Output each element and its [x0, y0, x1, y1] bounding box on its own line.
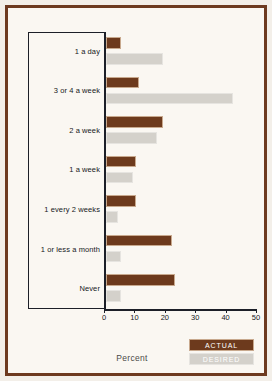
legend-label-actual: ACTUAL [205, 342, 238, 349]
x-tick-label: 30 [191, 314, 199, 322]
bar-group [106, 190, 261, 230]
bar-actual [106, 37, 121, 49]
bar-desired [106, 93, 234, 105]
bar-desired [106, 172, 133, 184]
bar-row: 2 a week [28, 111, 260, 151]
bar-actual [106, 116, 164, 128]
chart-figure: 1 a day3 or 4 a week2 a week1 a week1 ev… [0, 0, 272, 381]
bar-row: 3 or 4 a week [28, 72, 260, 112]
bar-group [106, 32, 261, 72]
x-tick-label: 10 [130, 314, 138, 322]
bar-group [106, 269, 261, 309]
x-tick-label: 0 [102, 314, 106, 322]
bar-row: 1 a day [28, 32, 260, 72]
bar-desired [106, 53, 164, 65]
bar-rows: 1 a day3 or 4 a week2 a week1 a week1 ev… [28, 32, 260, 309]
bar-row: 1 a week [28, 151, 260, 191]
bar-group [106, 151, 261, 191]
bar-actual [106, 77, 139, 89]
category-label: 1 a week [28, 167, 100, 175]
bar-group [106, 230, 261, 270]
bar-desired [106, 290, 121, 302]
bar-row: Never [28, 269, 260, 309]
bar-group [106, 111, 261, 151]
x-tick-label: 40 [221, 314, 229, 322]
bar-row: 1 every 2 weeks [28, 190, 260, 230]
decorative-frame: 1 a day3 or 4 a week2 a week1 a week1 ev… [5, 5, 267, 376]
bar-actual [106, 156, 136, 168]
value-axis-line [104, 309, 256, 311]
category-label: 1 a day [28, 48, 100, 56]
bar-actual [106, 235, 173, 247]
category-label: 2 a week [28, 127, 100, 135]
category-label: Never [28, 285, 100, 293]
category-label: 3 or 4 a week [28, 88, 100, 96]
legend-label-desired: DESIRED [203, 356, 240, 363]
plot-area: 1 a day3 or 4 a week2 a week1 a week1 ev… [8, 8, 270, 379]
category-label: 1 every 2 weeks [28, 206, 100, 214]
bar-desired [106, 132, 158, 144]
legend-item-actual[interactable]: ACTUAL [189, 339, 254, 351]
bar-desired [106, 251, 121, 263]
bar-desired [106, 211, 118, 223]
category-label: 1 or less a month [28, 246, 100, 254]
legend-item-desired[interactable]: DESIRED [189, 353, 254, 365]
bar-actual [106, 195, 136, 207]
bar-row: 1 or less a month [28, 230, 260, 270]
bar-group [106, 72, 261, 112]
chart-legend: ACTUAL DESIRED [189, 339, 254, 365]
x-tick-label: 20 [161, 314, 169, 322]
x-tick-label: 50 [252, 314, 260, 322]
bar-actual [106, 274, 176, 286]
